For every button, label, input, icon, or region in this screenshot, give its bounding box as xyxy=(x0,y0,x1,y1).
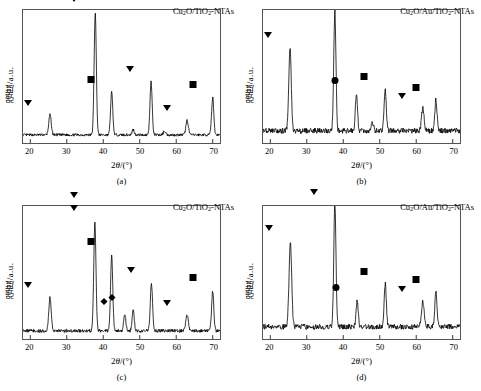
x-tick-label: 70 xyxy=(209,146,218,156)
peak-marker-square-icon xyxy=(87,76,94,83)
xrd-trace-a xyxy=(23,10,220,143)
x-tick-label: 40 xyxy=(339,146,348,156)
x-tick-label: 60 xyxy=(173,342,182,352)
x-tick-label: 20 xyxy=(25,342,34,352)
series-label-a: Cu2O/TiO2-NTAs xyxy=(173,6,234,16)
peak-marker-circle-icon xyxy=(333,284,340,291)
x-tick-label: 40 xyxy=(99,146,108,156)
x-tick-label: 30 xyxy=(62,146,71,156)
peak-marker-triangle-icon xyxy=(310,189,318,195)
panel-c: 强度/a.u. Cu2O/TiO2-NTAs 203040506070 2θ/(… xyxy=(0,196,240,391)
peak-marker-triangle-icon xyxy=(70,192,78,198)
peak-marker-triangle-icon xyxy=(127,267,135,273)
series-label-b: Cu2O/Au/TiO2-NTAs xyxy=(400,6,474,16)
peak-marker-square-icon xyxy=(87,238,94,245)
x-tick-label: 30 xyxy=(62,342,71,352)
x-axis-label-c: 2θ/(°) xyxy=(22,356,221,366)
y-axis-label-b: 强度/a.u. xyxy=(242,30,256,140)
peak-marker-square-icon xyxy=(189,81,196,88)
peak-marker-triangle-icon xyxy=(24,100,32,106)
peak-marker-circle-icon xyxy=(332,77,339,84)
x-tick-label: 40 xyxy=(339,342,348,352)
panel-b: 强度/a.u. Cu2O/Au/TiO2-NTAs 203040506070 2… xyxy=(240,0,480,195)
peak-marker-triangle-icon xyxy=(265,225,273,231)
x-tick-label: 50 xyxy=(136,342,145,352)
peak-marker-triangle-icon xyxy=(264,32,272,38)
x-axis-label-d: 2θ/(°) xyxy=(262,356,461,366)
x-tick-label: 60 xyxy=(413,342,422,352)
peak-marker-square-icon xyxy=(361,268,368,275)
xrd-figure: 强度/a.u. Cu2O/TiO2-NTAs 203040506070 2θ/(… xyxy=(0,0,481,391)
peak-marker-square-icon xyxy=(361,73,368,80)
x-tick-label: 70 xyxy=(449,146,458,156)
peak-marker-triangle-icon xyxy=(24,282,32,288)
series-label-c: Cu2O/TiO2-NTAs xyxy=(173,202,234,212)
peak-marker-triangle-icon xyxy=(163,105,171,111)
y-axis-label-a: 强度/a.u. xyxy=(2,30,16,140)
x-tick-label: 40 xyxy=(99,342,108,352)
x-tick-label: 20 xyxy=(25,146,34,156)
panel-caption-a: (a) xyxy=(22,176,221,186)
panel-d: 强度/a.u. Cu2O/Au/TiO2-NTAs 203040506070 2… xyxy=(240,196,480,391)
x-axis-label-a: 2θ/(°) xyxy=(22,160,221,170)
peak-marker-triangle-icon xyxy=(398,286,406,292)
y-axis-label-c: 强度/a.u. xyxy=(2,226,16,336)
panel-caption-b: (b) xyxy=(262,176,461,186)
x-tick-labels-b: 203040506070 xyxy=(262,146,461,158)
plot-area-a xyxy=(22,9,221,144)
peak-marker-triangle-icon xyxy=(70,205,78,211)
series-label-d: Cu2O/Au/TiO2-NTAs xyxy=(400,202,474,212)
x-tick-labels-c: 203040506070 xyxy=(22,342,221,354)
x-tick-label: 60 xyxy=(173,146,182,156)
x-tick-labels-d: 203040506070 xyxy=(262,342,461,354)
x-tick-label: 60 xyxy=(413,146,422,156)
peak-marker-triangle-icon xyxy=(163,300,171,306)
x-tick-label: 20 xyxy=(265,146,274,156)
peak-marker-square-icon xyxy=(412,84,419,91)
x-tick-label: 70 xyxy=(449,342,458,352)
x-tick-label: 30 xyxy=(302,342,311,352)
plot-area-c xyxy=(22,205,221,340)
y-axis-label-d: 强度/a.u. xyxy=(242,226,256,336)
peak-marker-square-icon xyxy=(412,276,419,283)
peak-marker-triangle-icon xyxy=(126,66,134,72)
peak-marker-triangle-icon xyxy=(398,93,406,99)
xrd-trace-c xyxy=(23,206,220,339)
x-tick-label: 50 xyxy=(376,342,385,352)
panel-caption-c: (c) xyxy=(22,372,221,382)
x-tick-label: 50 xyxy=(376,146,385,156)
peak-marker-triangle-icon xyxy=(70,0,78,2)
x-tick-label: 20 xyxy=(265,342,274,352)
x-axis-label-b: 2θ/(°) xyxy=(262,160,461,170)
x-tick-label: 50 xyxy=(136,146,145,156)
x-tick-label: 70 xyxy=(209,342,218,352)
x-tick-label: 30 xyxy=(302,146,311,156)
panel-a: 强度/a.u. Cu2O/TiO2-NTAs 203040506070 2θ/(… xyxy=(0,0,240,195)
peak-marker-square-icon xyxy=(189,274,196,281)
x-tick-labels-a: 203040506070 xyxy=(22,146,221,158)
panel-caption-d: (d) xyxy=(262,372,461,382)
